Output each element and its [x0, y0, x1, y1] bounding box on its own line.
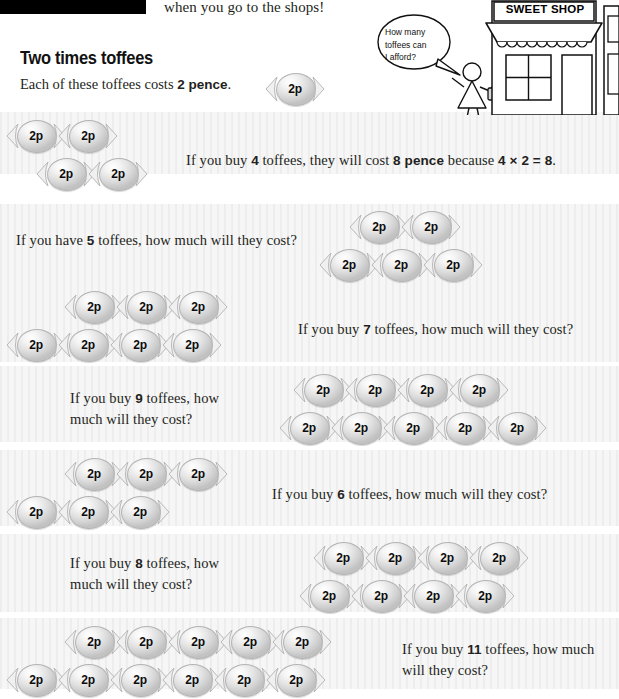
question-prefix: If you buy: [272, 486, 337, 502]
toffee: 2p: [167, 455, 229, 493]
shop-sign-label: SWEET SHOP: [493, 3, 597, 15]
toffee-group: 2p2p2p2p2p2p: [5, 455, 63, 531]
question-suffix: toffees, how much will they cost?: [371, 321, 573, 337]
toffee-wrapper-right: [215, 461, 229, 487]
toffee-label: 2p: [480, 542, 518, 573]
toffee-wrapper-right: [215, 294, 229, 320]
quantity-value: 6: [337, 487, 345, 502]
toffee-label: 2p: [412, 211, 450, 242]
toffee-group: 2p2p2p2p2p2p2p2p2p: [278, 371, 292, 447]
toffee-label: 2p: [127, 626, 165, 657]
toffee-wrapper-right: [448, 214, 462, 240]
toffee-label: 2p: [121, 329, 159, 360]
toffee-label: 2p: [283, 626, 321, 657]
toffee-label: 2p: [360, 211, 398, 242]
quantity-value: 9: [135, 391, 143, 406]
toffee-label: 2p: [179, 626, 217, 657]
equation: 4 × 2 = 8: [498, 153, 552, 168]
question-suffix: toffees, how much will they cost?: [94, 232, 296, 248]
toffee-label: 2p: [69, 496, 107, 527]
toffee: 2p: [265, 661, 327, 699]
question-middle: toffees, they will cost: [259, 152, 393, 168]
toffee: 2p: [400, 208, 462, 246]
because-text: because: [444, 152, 498, 168]
toffee-wrapper-right: [502, 583, 516, 609]
girl-leg-left: [466, 108, 469, 115]
toffee: 2p: [271, 623, 333, 661]
toffee-row: 2p2p2p2p2p: [278, 409, 292, 447]
toffee-label: 2p: [356, 374, 394, 405]
toffee-label: 2p: [69, 120, 107, 151]
toffee-wrapper-right: [516, 545, 530, 571]
toffee-label: 2p: [330, 249, 368, 280]
toffee: 2p: [161, 326, 223, 364]
toffee-group: 2p2p2p2p2p2p2p: [5, 288, 63, 364]
toffee-label: 2p: [324, 542, 362, 573]
toffee: 2p: [57, 117, 119, 155]
toffee-wrapper-right: [496, 377, 510, 403]
toffee-label: 2p: [394, 412, 432, 443]
speech-bubble-line-2: toffees can: [385, 39, 455, 52]
toffee-wrapper-right: [157, 499, 171, 525]
toffee-row: 2p2p2p2p: [5, 326, 63, 364]
question-prefix: If you buy: [298, 321, 363, 337]
toffee-label: 2p: [376, 542, 414, 573]
statement-end: .: [552, 152, 556, 168]
toffee-label: 2p: [99, 158, 137, 189]
toffee-label: 2p: [173, 664, 211, 695]
toffee-label: 2p: [17, 329, 55, 360]
toffee: 2p: [468, 539, 530, 577]
toffee-label: 2p: [434, 249, 472, 280]
toffee-wrapper-right: [135, 161, 149, 187]
girl-leg-right: [477, 108, 480, 115]
toffee-label: 2p: [382, 249, 420, 280]
lede-prefix: Each of these toffees costs: [20, 76, 177, 92]
page-title: Two times toffees: [20, 48, 153, 69]
toffee-label: 2p: [428, 542, 466, 573]
toffee-label: 2p: [179, 458, 217, 489]
toffee-wrapper-right: [313, 667, 327, 693]
toffee-wrapper-right: [105, 123, 119, 149]
toffee-label: 2p: [362, 580, 400, 611]
toffee-group: 2p2p2p2p: [5, 117, 35, 193]
toffee-label: 2p: [17, 496, 55, 527]
girl-head: [463, 63, 481, 81]
question-text: If you buy 7 toffees, how much will they…: [298, 319, 618, 340]
toffee-wrapper-right: [312, 76, 326, 102]
shop-door: [562, 55, 592, 115]
worked-example-text: If you buy 4 toffees, they will cost 8 p…: [186, 150, 606, 171]
toffee-label: 2p: [276, 73, 314, 104]
question-prefix: If you buy: [186, 152, 251, 168]
toffee: 2p: [167, 288, 229, 326]
shop-awning: [486, 23, 602, 42]
toffee-group: 2p2p2p2p2p2p2p2p: [298, 539, 312, 615]
quantity-value: 4: [251, 153, 259, 168]
toffee-label: 2p: [47, 158, 85, 189]
toffee-label: 2p: [173, 329, 211, 360]
toffee-wrapper-right: [319, 629, 333, 655]
toffee-label: 2p: [75, 626, 113, 657]
toffee-label: 2p: [277, 664, 315, 695]
toffee-label: 2p: [179, 291, 217, 322]
toffee: 2p: [264, 70, 326, 108]
toffee-label: 2p: [121, 496, 159, 527]
toffee-group: 2p2p2p2p2p2p2p2p2p2p2p: [5, 623, 63, 699]
speech-bubble-text: How many toffees can I afford?: [385, 26, 455, 64]
toffee-row: 2p2p2p2p: [298, 577, 312, 615]
toffee-wrapper-right: [209, 332, 223, 358]
speech-bubble-line-3: I afford?: [385, 51, 455, 64]
question-text: If you buy 6 toffees, how much will they…: [272, 484, 592, 505]
girl-arm-left: [452, 78, 464, 87]
toffee-label: 2p: [414, 580, 452, 611]
lede-suffix: .: [227, 76, 231, 92]
speech-bubble-line-1: How many: [385, 26, 455, 39]
redaction-bar: [0, 0, 146, 14]
question-suffix: toffees, how much will they cost?: [345, 486, 547, 502]
toffee: 2p: [87, 155, 149, 193]
quantity-value: 11: [467, 642, 481, 657]
toffee-label: 2p: [225, 664, 263, 695]
toffee-label: 2p: [466, 580, 504, 611]
question-prefix: If you have: [16, 232, 87, 248]
neighbour-window-top: [608, 16, 619, 42]
toffee: 2p: [486, 409, 548, 447]
